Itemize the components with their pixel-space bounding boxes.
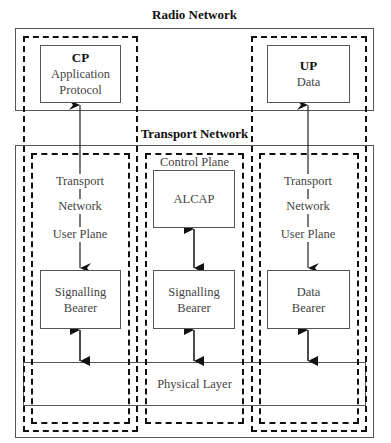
cp-heading: CP — [72, 50, 89, 66]
cp-application-protocol-box: CP Application Protocol — [40, 45, 121, 103]
cp-line1: Application — [51, 66, 110, 82]
middle-signalling-bearer-box: Signalling Bearer — [153, 270, 235, 329]
left-stack-label-transport: Transport — [50, 174, 110, 189]
control-plane-title: Control Plane — [152, 155, 237, 170]
left-bearer-line1: Signalling — [55, 284, 106, 300]
right-stack-label-transport: Transport — [278, 174, 338, 189]
right-bearer-line2: Bearer — [292, 300, 325, 316]
right-stack-label-network: Network — [278, 199, 338, 214]
left-signalling-bearer-box: Signalling Bearer — [40, 270, 121, 329]
left-stack-label-network: Network — [50, 199, 110, 214]
right-bearer-line1: Data — [297, 284, 321, 300]
alcap-label: ALCAP — [174, 191, 215, 207]
up-heading: UP — [300, 58, 317, 74]
data-bearer-box: Data Bearer — [267, 270, 350, 329]
middle-bearer-line2: Bearer — [177, 300, 210, 316]
middle-bearer-line1: Signalling — [168, 284, 219, 300]
cp-line2: Protocol — [59, 82, 101, 98]
up-data-box: UP Data — [267, 45, 350, 103]
alcap-box: ALCAP — [153, 170, 235, 228]
left-stack-label-user-plane: User Plane — [45, 227, 115, 242]
up-line1: Data — [297, 74, 321, 90]
left-bearer-line2: Bearer — [64, 300, 97, 316]
right-stack-label-user-plane: User Plane — [273, 227, 343, 242]
